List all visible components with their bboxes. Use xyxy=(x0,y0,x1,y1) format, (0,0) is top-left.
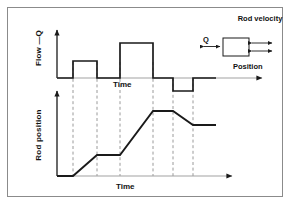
flow-time-axis-label: Time xyxy=(113,81,132,89)
cylinder-body-icon xyxy=(223,38,249,56)
inset-flow-label: Q xyxy=(203,36,209,44)
rod-position-time-axis-label: Time xyxy=(116,183,135,191)
inset-position-label: Position xyxy=(233,63,263,71)
rod-position-curve xyxy=(57,111,216,176)
inset-rod-velocity-label: Rod velocity xyxy=(236,14,284,24)
flow-waveform xyxy=(57,43,216,91)
rod-position-axis-label: Rod position xyxy=(35,98,43,172)
cylinder-schematic xyxy=(204,38,272,56)
time-marker-lines xyxy=(73,62,193,176)
flow-axis-label: Flow —Q xyxy=(35,20,43,76)
rod-position-chart xyxy=(57,91,232,176)
figure-root: Flow —Q Rod position Time Time Q Rod vel… xyxy=(0,0,291,212)
diagram-canvas xyxy=(0,0,291,212)
